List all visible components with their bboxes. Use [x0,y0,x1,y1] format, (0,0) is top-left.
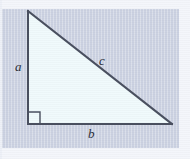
label-leg-b: b [88,127,95,140]
right-triangle-figure: a c b [0,0,190,159]
triangle-drawing [0,0,190,159]
figure-canvas: a c b [0,0,190,159]
label-hypotenuse-c: c [99,54,105,67]
label-leg-a: a [15,60,22,73]
